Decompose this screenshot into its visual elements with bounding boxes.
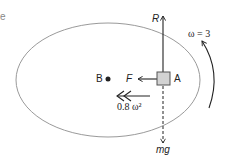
- partial-corner-text: e: [0, 12, 6, 22]
- point-b-label: B: [96, 74, 103, 84]
- block-a: [157, 72, 170, 85]
- weight-label: mg: [156, 145, 170, 155]
- point-b-dot: [106, 77, 111, 82]
- reaction-label: R: [152, 14, 159, 24]
- acceleration-double-arrow: [117, 91, 150, 101]
- point-a-label: A: [174, 74, 181, 84]
- angular-velocity-label: ω = 3: [188, 29, 210, 39]
- rotation-arrow: [202, 41, 214, 108]
- diagram-canvas: [0, 0, 230, 167]
- friction-label: F: [126, 74, 132, 84]
- acceleration-label: 0.8 ω²: [117, 102, 142, 112]
